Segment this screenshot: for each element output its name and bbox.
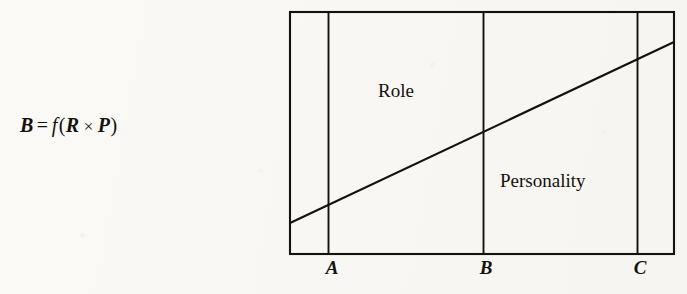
diagram-strokes	[0, 0, 687, 294]
tick-label-b: B	[474, 257, 498, 279]
figure-canvas: B=f(R×P) Role Personality A B C	[0, 0, 687, 294]
region-label-role: Role	[378, 80, 414, 102]
region-label-personality: Personality	[500, 170, 586, 192]
tick-label-c: C	[628, 257, 652, 279]
behavior-diagonal-line	[290, 42, 674, 223]
tick-label-a: A	[320, 257, 344, 279]
